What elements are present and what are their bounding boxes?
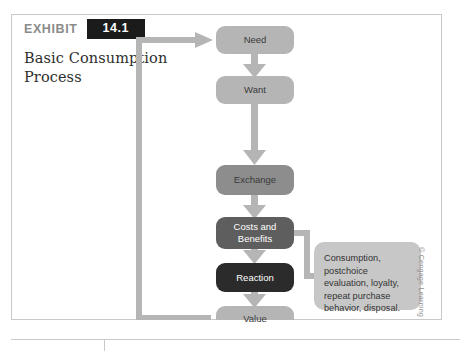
connector-want-to-exchange bbox=[243, 102, 266, 165]
node-want[interactable] bbox=[216, 76, 294, 104]
node-need[interactable] bbox=[216, 26, 294, 54]
credit-label: © Cengage Learning bbox=[418, 247, 425, 317]
connector-exchange-to-costs bbox=[243, 195, 266, 219]
exhibit-page: EXHIBIT 14.1 Basic Consumption Process bbox=[0, 0, 460, 351]
flow-diagram: Need Want Exchange Costs and Benefits Re… bbox=[11, 14, 442, 320]
page-bottom-rule bbox=[11, 339, 460, 340]
connector-reaction-to-value bbox=[243, 290, 266, 308]
page-gutter-tick bbox=[104, 339, 105, 351]
node-value[interactable] bbox=[216, 306, 294, 320]
credit-block: © Cengage Learning bbox=[425, 247, 437, 337]
node-exchange[interactable] bbox=[216, 165, 294, 195]
node-callout-label: Consumption, postchoice evaluation, loya… bbox=[324, 252, 414, 315]
node-costs[interactable] bbox=[216, 217, 294, 249]
connector-value-to-need bbox=[139, 32, 213, 318]
node-reaction[interactable] bbox=[216, 263, 294, 292]
